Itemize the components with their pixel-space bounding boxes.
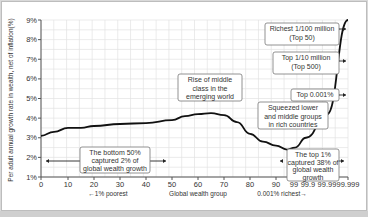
bottom50-arrow-left-head — [46, 159, 49, 163]
annotation-squeezed-text: in rich countries — [268, 121, 318, 128]
y-tick-label: 9% — [26, 16, 37, 25]
x-tick-label: 60 — [194, 180, 202, 189]
bottom50-arrow-right-head — [163, 159, 166, 163]
annotation-squeezed: Squeezed lowerand middle groupsin rich c… — [258, 102, 328, 129]
x-tick-label: 99.999 — [337, 180, 360, 189]
top0001-arrow-head — [343, 93, 346, 97]
x-tick-label: 20 — [90, 180, 98, 189]
y-tick-label: 1% — [26, 173, 37, 182]
y-tick-label: 5% — [26, 94, 37, 103]
annotation-top-1pct-text: growth — [302, 174, 323, 182]
annotations: The bottom 50%captured 2% ofglobal wealt… — [46, 23, 346, 182]
top1-arrow-left-head — [280, 159, 283, 163]
annotation-top-500-text: Top 1/10 million — [282, 54, 331, 62]
x-tick-label: 80 — [246, 180, 254, 189]
annotation-top-0001pct: Top 0.001% — [291, 89, 339, 101]
annotation-bottom-50-text: global wealth growth — [83, 165, 147, 173]
annotation-squeezed-text: Squeezed lower — [268, 104, 319, 112]
x-tick-label: 50 — [168, 180, 176, 189]
y-axis-label: Per adult annual growth rate in wealth, … — [7, 18, 15, 181]
annotation-middle-class: Rise of middleclass in theemerging world — [178, 74, 242, 101]
annotation-middle-class-text: Rise of middle — [188, 76, 232, 83]
x-tick-label: 70 — [220, 180, 228, 189]
annotation-top-500: Top 1/10 million(Top 500) — [273, 52, 339, 74]
x-axis-label: Global wealth group — [169, 190, 227, 198]
x-tick-label: 30 — [116, 180, 124, 189]
y-tick-label: 7% — [26, 55, 37, 64]
top50-arrow-head — [343, 27, 346, 31]
annotation-squeezed-text: and middle groups — [264, 113, 322, 121]
annotation-top-1pct: The top 1%captured 38% ofglobal wealthgr… — [287, 149, 339, 182]
y-tick-label: 2% — [26, 153, 37, 162]
annotation-top-50-text: Richest 1/100 million — [270, 25, 335, 32]
annotation-top-500-text: (Top 500) — [291, 63, 321, 71]
top1-arrow-right-head — [341, 159, 344, 163]
annotation-top-0001pct-text: Top 0.001% — [297, 91, 334, 99]
wealth-growth-chart: 1%2%3%4%5%6%7%8%9%0102030405060708090999… — [0, 0, 368, 217]
x-tick-label: 40 — [142, 180, 150, 189]
annotation-top-50: Richest 1/100 million(Top 50) — [265, 23, 339, 45]
y-tick-label: 4% — [26, 114, 37, 123]
y-tick-label: 6% — [26, 74, 37, 83]
annotation-middle-class-text: emerging world — [186, 93, 234, 101]
x-tick-label: 10 — [64, 180, 72, 189]
x-axis-left-label: ←1% poorest — [88, 190, 128, 198]
y-tick-label: 3% — [26, 133, 37, 142]
x-tick-label: 0 — [39, 180, 43, 189]
annotation-top-50-text: (Top 50) — [289, 34, 315, 42]
x-axis-right-label: 0.001% richest→ — [257, 190, 307, 197]
annotation-bottom-50-text: captured 2% of — [91, 157, 138, 165]
y-tick-label: 8% — [26, 35, 37, 44]
annotation-bottom-50-text: The bottom 50% — [89, 149, 140, 156]
annotation-bottom-50: The bottom 50%captured 2% ofglobal wealt… — [80, 147, 150, 173]
x-tick-label: 90 — [272, 180, 280, 189]
annotation-middle-class-text: class in the — [192, 85, 227, 92]
